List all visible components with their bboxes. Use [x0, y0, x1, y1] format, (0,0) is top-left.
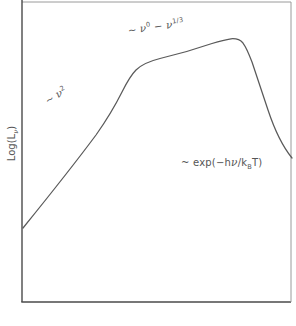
y-axis-label: Log(Lν)	[6, 108, 17, 180]
annotation-wien-tilde: ~	[181, 157, 190, 168]
annotation-flat-tilde: ~	[127, 24, 137, 36]
annotation-wien-tail: T)	[252, 157, 262, 168]
sed-figure: Log(Lν) ~ ν2 ~ ν0 − ν1/3 ~ exp(−hν/kBT)	[0, 0, 296, 326]
annotation-wien-slash: /k	[238, 157, 248, 168]
annotation-wien-body-open: exp(−h	[193, 157, 231, 168]
y-axis-label-subscript: ν	[12, 130, 20, 134]
annotation-flat-exponent-second: 1/3	[172, 16, 184, 25]
annotation-flat-exponent-first: 0	[145, 21, 150, 30]
sed-curve	[23, 39, 292, 228]
annotation-wien-nu: ν	[231, 156, 238, 168]
y-axis-label-suffix: )	[6, 126, 17, 130]
annotation-flat-dash: −	[153, 20, 163, 32]
annotation-wien-cutoff: ~ exp(−hν/kBT)	[181, 157, 262, 168]
y-axis-label-prefix: Log(L	[6, 134, 17, 161]
